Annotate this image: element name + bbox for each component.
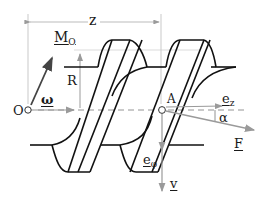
point-a xyxy=(159,107,166,114)
e-phi-label: eφ xyxy=(143,153,157,169)
omega-label: ω xyxy=(41,93,53,106)
velocity-label: v xyxy=(170,177,177,190)
force-vector xyxy=(166,111,254,130)
moment-label-sub: O xyxy=(68,37,75,47)
alpha-label: α xyxy=(219,111,228,124)
e-z-label-sub: z xyxy=(230,98,235,108)
e-z-label-main: e xyxy=(222,91,230,106)
e-phi-label-main: e xyxy=(143,152,151,167)
origin-point xyxy=(25,107,31,113)
radius-label: R xyxy=(67,74,77,87)
moment-label: MO xyxy=(54,30,76,47)
e-z-label: ez xyxy=(222,92,234,108)
origin-label: O xyxy=(13,104,24,117)
z-label: z xyxy=(89,13,96,27)
point-a-label: A xyxy=(167,93,176,105)
moment-label-main: M xyxy=(54,29,68,45)
e-z-vector xyxy=(166,106,222,107)
force-label: F xyxy=(234,137,243,150)
e-phi-label-sub: φ xyxy=(151,159,157,169)
